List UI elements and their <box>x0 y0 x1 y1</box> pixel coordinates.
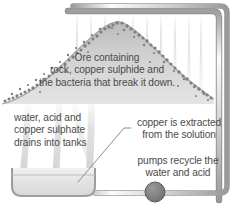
pump-caption: pumps recycle the water and acid <box>119 155 237 180</box>
collection-tank <box>12 168 95 196</box>
drain-caption: water, acid and copper sulphate drains i… <box>14 112 124 149</box>
bioleaching-diagram: Ore containing rock, copper sulphide and… <box>0 0 244 211</box>
pump <box>145 182 165 202</box>
extract-caption: copper is extracted from the solution <box>119 117 239 142</box>
heap-caption: Ore containing rock, copper sulphide and… <box>14 52 200 89</box>
